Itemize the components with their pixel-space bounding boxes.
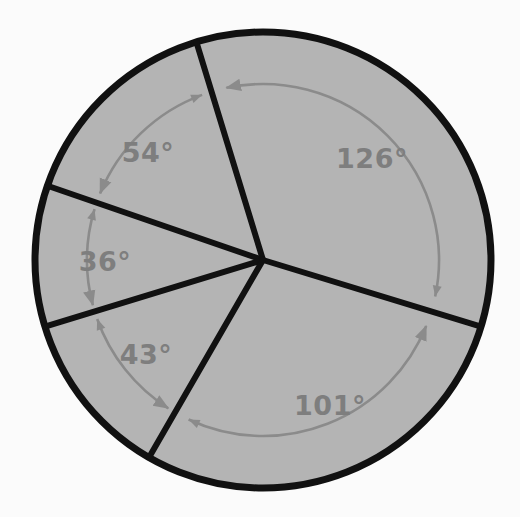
angle-label-126: 126° — [336, 143, 408, 174]
angle-label-101: 101° — [294, 390, 366, 421]
circle-sector-diagram: 126° 54° 36° 43° 101° — [0, 0, 520, 517]
figure-canvas: 126° 54° 36° 43° 101° — [0, 0, 520, 517]
angle-label-54: 54° — [122, 137, 175, 168]
angle-label-36: 36° — [79, 246, 132, 277]
angle-label-43: 43° — [120, 339, 173, 370]
